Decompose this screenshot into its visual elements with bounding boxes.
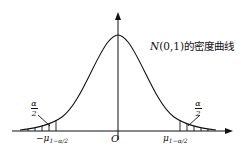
fraction-denominator: 2	[195, 109, 200, 118]
fraction-denominator: 2	[31, 109, 36, 118]
curve-label-text: (0,1)的密度曲线	[159, 40, 234, 52]
left-tail-fraction: α2	[30, 99, 38, 118]
fraction-numerator: α	[195, 99, 200, 108]
curve-label: N(0,1)的密度曲线	[150, 41, 234, 52]
y-axis-arrow-icon	[115, 12, 121, 20]
left-quantile-subscript: 1−α/2	[49, 137, 68, 144]
curve-label-n: N	[150, 40, 159, 52]
right-tail-fraction: α2	[194, 99, 202, 118]
x-axis-arrow-icon	[225, 128, 233, 134]
left-leader-line	[38, 115, 50, 126]
right-quantile-label: μ1−α/2	[163, 134, 188, 144]
fraction-numerator: α	[31, 99, 36, 108]
origin-label: O	[111, 134, 119, 144]
left-quantile-label: −μ1−α/2	[36, 134, 68, 144]
right-quantile-subscript: 1−α/2	[169, 137, 188, 144]
left-quantile-symbol: −μ	[36, 133, 49, 143]
